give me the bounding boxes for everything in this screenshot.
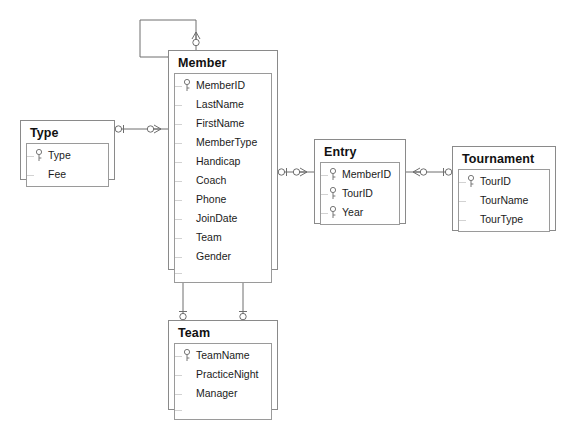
key-slot bbox=[323, 165, 342, 184]
field-row[interactable]: Manager bbox=[175, 384, 271, 403]
entity-entry[interactable]: Entry MemberID TourID bbox=[314, 139, 406, 224]
key-icon bbox=[467, 175, 475, 188]
key-icon bbox=[329, 206, 337, 219]
entity-type[interactable]: Type Type Fee bbox=[20, 120, 115, 180]
field-row[interactable]: MemberType bbox=[175, 133, 271, 152]
key-slot bbox=[29, 146, 48, 165]
key-slot bbox=[177, 190, 196, 209]
field-row[interactable]: Fee bbox=[27, 165, 108, 184]
field-label: TourID bbox=[342, 187, 373, 200]
key-slot bbox=[461, 172, 480, 191]
key-icon bbox=[183, 79, 191, 92]
key-slot bbox=[177, 228, 196, 247]
key-slot bbox=[177, 365, 196, 384]
key-slot bbox=[177, 247, 196, 266]
connector-tournament-entry[interactable] bbox=[406, 168, 452, 176]
field-label: Manager bbox=[196, 387, 237, 400]
key-slot bbox=[177, 76, 196, 95]
field-row[interactable]: Handicap bbox=[175, 152, 271, 171]
entity-member[interactable]: Member MemberID LastName FirstName bbox=[168, 50, 278, 270]
field-row[interactable]: Coach bbox=[175, 171, 271, 190]
field-row[interactable]: TourType bbox=[459, 210, 549, 229]
field-label: Handicap bbox=[196, 155, 240, 168]
key-slot bbox=[177, 152, 196, 171]
field-row[interactable]: Team bbox=[175, 228, 271, 247]
key-slot bbox=[177, 133, 196, 152]
field-row-filler bbox=[175, 403, 271, 417]
key-slot bbox=[177, 346, 196, 365]
entity-title-tournament: Tournament bbox=[458, 151, 550, 169]
key-slot bbox=[461, 210, 480, 229]
key-slot bbox=[177, 209, 196, 228]
connector-type-member[interactable] bbox=[115, 125, 168, 133]
field-label: Team bbox=[196, 231, 222, 244]
key-slot bbox=[29, 165, 48, 184]
field-label: Coach bbox=[196, 174, 226, 187]
field-list-member: MemberID LastName FirstName MemberType H… bbox=[174, 73, 272, 283]
entity-title-entry: Entry bbox=[320, 144, 400, 162]
field-row[interactable]: MemberID bbox=[321, 165, 399, 184]
entity-team[interactable]: Team TeamName PracticeNight Manager bbox=[168, 320, 278, 410]
key-slot bbox=[461, 191, 480, 210]
field-row[interactable]: TeamName bbox=[175, 346, 271, 365]
key-slot bbox=[177, 114, 196, 133]
field-label: LastName bbox=[196, 98, 244, 111]
field-list-type: Type Fee bbox=[26, 143, 109, 187]
field-label: TourType bbox=[480, 213, 523, 226]
field-row[interactable]: Gender bbox=[175, 247, 271, 266]
field-row[interactable]: Phone bbox=[175, 190, 271, 209]
field-row-filler bbox=[175, 266, 271, 280]
key-slot bbox=[177, 171, 196, 190]
field-row[interactable]: LastName bbox=[175, 95, 271, 114]
field-label: JoinDate bbox=[196, 212, 237, 225]
field-label: PracticeNight bbox=[196, 368, 258, 381]
key-slot bbox=[177, 384, 196, 403]
connector-member-entry[interactable] bbox=[278, 168, 314, 176]
field-row[interactable]: PracticeNight bbox=[175, 365, 271, 384]
field-label: TourID bbox=[480, 175, 511, 188]
entity-title-member: Member bbox=[174, 55, 272, 73]
field-row[interactable]: TourID bbox=[321, 184, 399, 203]
field-list-tournament: TourID TourName TourType bbox=[458, 169, 550, 232]
field-row[interactable]: MemberID bbox=[175, 76, 271, 95]
key-icon bbox=[329, 168, 337, 181]
field-label: Phone bbox=[196, 193, 226, 206]
key-icon bbox=[183, 349, 191, 362]
field-list-entry: MemberID TourID Year bbox=[320, 162, 400, 225]
field-row[interactable]: TourName bbox=[459, 191, 549, 210]
field-row[interactable]: FirstName bbox=[175, 114, 271, 133]
field-list-team: TeamName PracticeNight Manager bbox=[174, 343, 272, 420]
key-slot bbox=[177, 95, 196, 114]
field-row[interactable]: JoinDate bbox=[175, 209, 271, 228]
field-label: Year bbox=[342, 206, 363, 219]
er-diagram-canvas: Type Type Fee Member bbox=[0, 0, 572, 431]
field-label: MemberID bbox=[342, 168, 391, 181]
field-label: Gender bbox=[196, 250, 231, 263]
field-label: TeamName bbox=[196, 349, 250, 362]
field-row[interactable]: Year bbox=[321, 203, 399, 222]
field-row[interactable]: Type bbox=[27, 146, 108, 165]
field-label: MemberID bbox=[196, 79, 245, 92]
key-slot bbox=[323, 184, 342, 203]
field-label: TourName bbox=[480, 194, 528, 207]
field-row[interactable]: TourID bbox=[459, 172, 549, 191]
field-label: FirstName bbox=[196, 117, 244, 130]
entity-tournament[interactable]: Tournament TourID TourName TourType bbox=[452, 146, 556, 231]
key-slot bbox=[323, 203, 342, 222]
field-label: Type bbox=[48, 149, 71, 162]
entity-title-type: Type bbox=[26, 125, 109, 143]
key-icon bbox=[329, 187, 337, 200]
entity-title-team: Team bbox=[174, 325, 272, 343]
field-label: MemberType bbox=[196, 136, 257, 149]
field-label: Fee bbox=[48, 168, 66, 181]
key-icon bbox=[35, 149, 43, 162]
